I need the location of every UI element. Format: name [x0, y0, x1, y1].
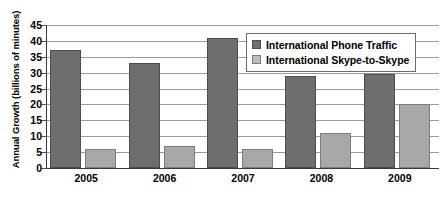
bar-phone-2009 — [364, 74, 395, 168]
x-tick-label: 2008 — [282, 172, 360, 184]
bar-skype-2007 — [242, 149, 273, 168]
x-tick-label: 2005 — [47, 172, 125, 184]
y-tick-label: 25 — [16, 83, 42, 95]
bar-phone-2006 — [129, 63, 160, 168]
bar-phone-2007 — [207, 38, 238, 168]
bar-phone-2008 — [285, 76, 316, 168]
chart-legend: International Phone Traffic Internationa… — [246, 33, 416, 72]
x-tick-label: 2007 — [204, 172, 282, 184]
x-tick-label: 2006 — [125, 172, 203, 184]
legend-item-skype: International Skype-to-Skype — [252, 52, 409, 67]
y-tick-label: 15 — [16, 114, 42, 126]
legend-item-label: International Skype-to-Skype — [266, 54, 409, 66]
legend-item-label: International Phone Traffic — [266, 39, 397, 51]
bar-chart: Annual Growth (billions of minutes) 2005… — [0, 0, 447, 212]
bar-skype-2009 — [399, 104, 430, 168]
y-tick-label: 45 — [16, 19, 42, 31]
y-tick-label: 10 — [16, 130, 42, 142]
y-tick-label: 40 — [16, 35, 42, 47]
legend-swatch-icon — [252, 40, 261, 49]
gridline — [47, 168, 439, 169]
y-tick-label: 30 — [16, 67, 42, 79]
y-tick-label: 5 — [16, 146, 42, 158]
legend-swatch-icon — [252, 55, 261, 64]
legend-item-phone: International Phone Traffic — [252, 37, 409, 52]
bar-skype-2006 — [164, 146, 195, 168]
bar-phone-2005 — [50, 50, 81, 168]
y-tick-label: 0 — [16, 162, 42, 174]
y-tick-label: 35 — [16, 51, 42, 63]
y-tick-label: 20 — [16, 98, 42, 110]
x-axis-labels: 20052006200720082009 — [47, 172, 439, 192]
bar-skype-2005 — [85, 149, 116, 168]
bar-skype-2008 — [320, 133, 351, 168]
x-tick-label: 2009 — [361, 172, 439, 184]
